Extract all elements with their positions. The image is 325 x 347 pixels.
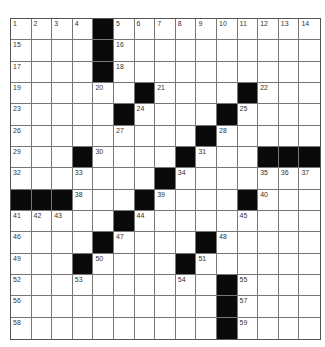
- grid-cell[interactable]: [114, 296, 135, 317]
- grid-cell[interactable]: [196, 104, 217, 125]
- grid-cell[interactable]: [258, 126, 279, 147]
- grid-cell[interactable]: [217, 83, 238, 104]
- grid-cell[interactable]: [114, 275, 135, 296]
- grid-cell[interactable]: [258, 232, 279, 253]
- grid-cell[interactable]: [73, 83, 94, 104]
- grid-cell[interactable]: [196, 168, 217, 189]
- grid-cell[interactable]: 29: [11, 147, 32, 168]
- grid-cell[interactable]: [279, 104, 300, 125]
- grid-cell[interactable]: [279, 40, 300, 61]
- grid-cell[interactable]: [217, 168, 238, 189]
- grid-cell[interactable]: [155, 40, 176, 61]
- grid-cell[interactable]: [52, 318, 73, 339]
- grid-cell[interactable]: [217, 254, 238, 275]
- grid-cell[interactable]: [135, 168, 156, 189]
- grid-cell[interactable]: [52, 296, 73, 317]
- grid-cell[interactable]: [73, 126, 94, 147]
- grid-cell[interactable]: [52, 168, 73, 189]
- grid-cell[interactable]: 33: [73, 168, 94, 189]
- grid-cell[interactable]: [93, 190, 114, 211]
- grid-cell[interactable]: 7: [155, 19, 176, 40]
- grid-cell[interactable]: [114, 190, 135, 211]
- grid-cell[interactable]: 6: [135, 19, 156, 40]
- grid-cell[interactable]: 43: [52, 211, 73, 232]
- grid-cell[interactable]: 56: [11, 296, 32, 317]
- grid-cell[interactable]: [135, 62, 156, 83]
- grid-cell[interactable]: [73, 318, 94, 339]
- grid-cell[interactable]: 57: [238, 296, 259, 317]
- grid-cell[interactable]: [176, 190, 197, 211]
- grid-cell[interactable]: [52, 254, 73, 275]
- grid-cell[interactable]: [32, 318, 53, 339]
- grid-cell[interactable]: 12: [258, 19, 279, 40]
- grid-cell[interactable]: [93, 318, 114, 339]
- grid-cell[interactable]: [279, 296, 300, 317]
- grid-cell[interactable]: [299, 104, 320, 125]
- grid-cell[interactable]: [196, 190, 217, 211]
- grid-cell[interactable]: [32, 104, 53, 125]
- grid-cell[interactable]: 20: [93, 83, 114, 104]
- grid-cell[interactable]: [279, 275, 300, 296]
- grid-cell[interactable]: 52: [11, 275, 32, 296]
- grid-cell[interactable]: 15: [11, 40, 32, 61]
- grid-cell[interactable]: [196, 296, 217, 317]
- grid-cell[interactable]: 25: [238, 104, 259, 125]
- grid-cell[interactable]: [32, 62, 53, 83]
- grid-cell[interactable]: 23: [11, 104, 32, 125]
- grid-cell[interactable]: [155, 62, 176, 83]
- grid-cell[interactable]: [217, 62, 238, 83]
- grid-cell[interactable]: [52, 232, 73, 253]
- grid-cell[interactable]: [238, 62, 259, 83]
- grid-cell[interactable]: 53: [73, 275, 94, 296]
- grid-cell[interactable]: [176, 40, 197, 61]
- grid-cell[interactable]: 41: [11, 211, 32, 232]
- grid-cell[interactable]: 48: [217, 232, 238, 253]
- grid-cell[interactable]: [155, 296, 176, 317]
- grid-cell[interactable]: 51: [196, 254, 217, 275]
- grid-cell[interactable]: [176, 126, 197, 147]
- grid-cell[interactable]: [279, 318, 300, 339]
- grid-cell[interactable]: [196, 211, 217, 232]
- grid-cell[interactable]: 4: [73, 19, 94, 40]
- grid-cell[interactable]: [93, 126, 114, 147]
- grid-cell[interactable]: [52, 40, 73, 61]
- grid-cell[interactable]: 27: [114, 126, 135, 147]
- grid-cell[interactable]: [73, 62, 94, 83]
- grid-cell[interactable]: 39: [155, 190, 176, 211]
- grid-cell[interactable]: [299, 190, 320, 211]
- grid-cell[interactable]: 5: [114, 19, 135, 40]
- grid-cell[interactable]: [135, 296, 156, 317]
- grid-cell[interactable]: [279, 62, 300, 83]
- grid-cell[interactable]: [155, 211, 176, 232]
- grid-cell[interactable]: [299, 83, 320, 104]
- grid-cell[interactable]: 16: [114, 40, 135, 61]
- grid-cell[interactable]: [176, 211, 197, 232]
- grid-cell[interactable]: [279, 211, 300, 232]
- grid-cell[interactable]: [93, 168, 114, 189]
- grid-cell[interactable]: [155, 232, 176, 253]
- grid-cell[interactable]: [238, 147, 259, 168]
- grid-cell[interactable]: [114, 168, 135, 189]
- grid-cell[interactable]: [279, 83, 300, 104]
- grid-cell[interactable]: [135, 275, 156, 296]
- grid-cell[interactable]: 3: [52, 19, 73, 40]
- grid-cell[interactable]: [299, 296, 320, 317]
- grid-cell[interactable]: 14: [299, 19, 320, 40]
- grid-cell[interactable]: [32, 232, 53, 253]
- grid-cell[interactable]: [176, 83, 197, 104]
- grid-cell[interactable]: [299, 318, 320, 339]
- grid-cell[interactable]: [299, 232, 320, 253]
- grid-cell[interactable]: [155, 104, 176, 125]
- grid-cell[interactable]: 44: [135, 211, 156, 232]
- grid-cell[interactable]: [258, 254, 279, 275]
- grid-cell[interactable]: [196, 318, 217, 339]
- grid-cell[interactable]: [52, 275, 73, 296]
- grid-cell[interactable]: [217, 190, 238, 211]
- grid-cell[interactable]: 36: [279, 168, 300, 189]
- grid-cell[interactable]: [176, 296, 197, 317]
- grid-cell[interactable]: 59: [238, 318, 259, 339]
- grid-cell[interactable]: [135, 147, 156, 168]
- grid-cell[interactable]: 21: [155, 83, 176, 104]
- grid-cell[interactable]: [155, 275, 176, 296]
- grid-cell[interactable]: 47: [114, 232, 135, 253]
